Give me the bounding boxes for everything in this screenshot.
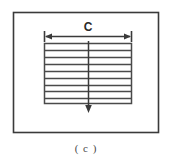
dimension-label-c: C bbox=[84, 20, 93, 34]
figure-caption: ( c ) bbox=[75, 142, 98, 155]
figure-container: C ( c ) bbox=[0, 0, 172, 161]
technical-diagram: C ( c ) bbox=[0, 0, 172, 161]
